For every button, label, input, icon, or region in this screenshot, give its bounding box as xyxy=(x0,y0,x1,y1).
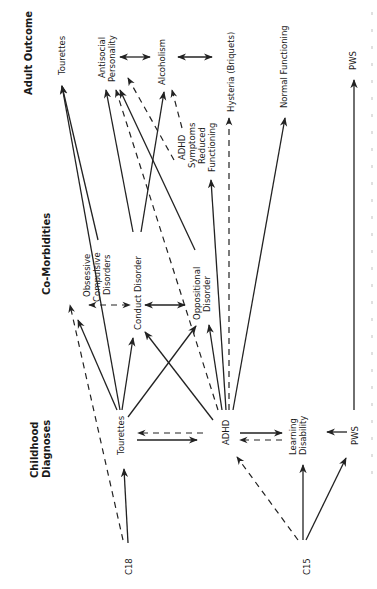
node-learning-disability: Learning Disability xyxy=(288,416,308,455)
svg-text:Disorder: Disorder xyxy=(202,275,212,312)
svg-text:Oppositional: Oppositional xyxy=(192,267,202,320)
svg-text:Learning: Learning xyxy=(288,418,298,455)
node-tourettes-child: Tourettes xyxy=(116,415,126,456)
node-c18: C18 xyxy=(124,558,134,575)
diagram-canvas: Adult Outcome Co-Morbidities Childhood D… xyxy=(0,0,377,589)
svg-text:Disorders: Disorders xyxy=(102,254,112,295)
svg-text:ADHD: ADHD xyxy=(177,134,187,160)
node-adhd-symptoms-reduced-functioning: ADHD Symptoms Reduced Functioning xyxy=(177,122,217,172)
node-antisocial-personality: Antisocial Personality xyxy=(97,35,117,82)
node-alcoholism: Alcoholism xyxy=(157,39,167,85)
node-normal-functioning: Normal Functioning xyxy=(279,25,289,108)
svg-text:Childhood: Childhood xyxy=(29,422,40,479)
svg-text:Disability: Disability xyxy=(298,416,308,455)
svg-text:Personality: Personality xyxy=(107,35,117,82)
svg-text:Antisocial: Antisocial xyxy=(97,37,107,78)
node-c15: C15 xyxy=(302,558,312,575)
node-tourettes-adult: Tourettes xyxy=(57,35,67,76)
node-pws-adult: PWS xyxy=(348,51,358,70)
svg-text:Reduced: Reduced xyxy=(197,127,207,164)
header-childhood-diagnoses: Childhood Diagnoses xyxy=(29,420,52,478)
node-oppositional-disorder: Oppositional Disorder xyxy=(192,267,212,320)
node-conduct-disorder: Conduct Disorder xyxy=(133,255,143,330)
svg-text:Symptoms: Symptoms xyxy=(187,122,197,168)
svg-text:Functioning: Functioning xyxy=(207,123,217,172)
node-pws-child: PWS xyxy=(350,426,360,445)
node-obsessive-compulsive-disorders: Obsessive Compulsive Disorders xyxy=(82,252,112,302)
node-hysteria-briquets: Hysteria (Briquets) xyxy=(226,32,236,112)
header-co-morbidities: Co-Morbidities xyxy=(41,213,52,295)
header-adult-outcome: Adult Outcome xyxy=(23,11,34,95)
svg-text:Diagnoses: Diagnoses xyxy=(41,420,52,478)
svg-text:Obsessive: Obsessive xyxy=(82,254,92,297)
node-adhd: ADHD xyxy=(221,419,231,445)
